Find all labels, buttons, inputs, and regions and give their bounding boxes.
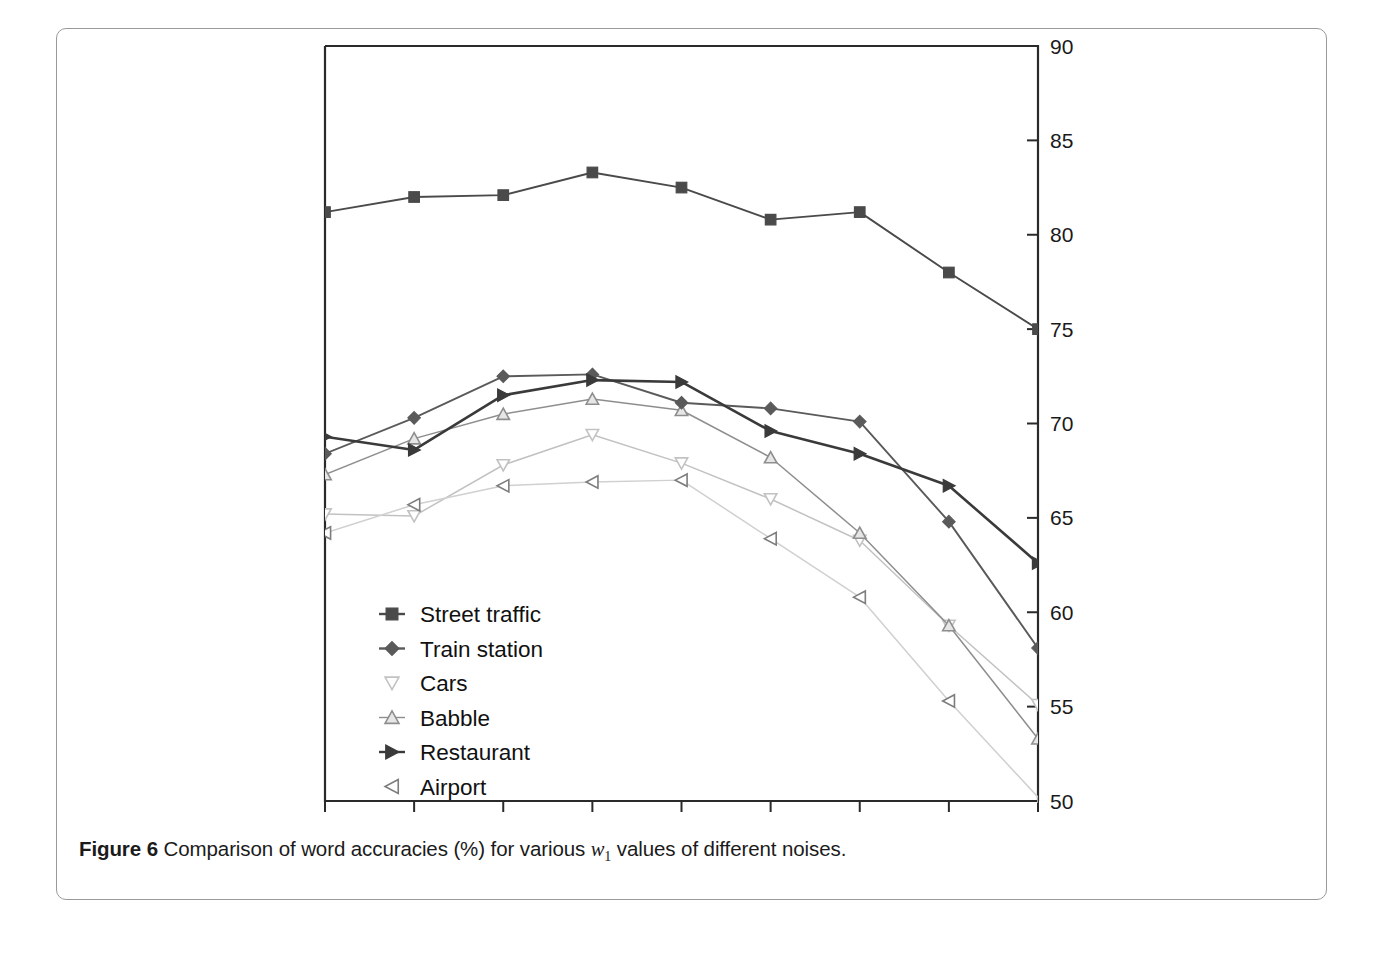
data-point-marker <box>586 430 598 441</box>
data-point-marker <box>854 448 866 460</box>
legend-label: Train station <box>420 637 543 662</box>
data-point-marker <box>586 476 598 488</box>
chart-series <box>320 167 1044 334</box>
x-axis-ticks: -9-8-7-6-5-4-3-2-1 <box>316 801 1048 829</box>
chart-series <box>319 430 1044 711</box>
x-tick-label: -2 <box>940 826 959 829</box>
y-tick-label: 90 <box>1050 35 1073 58</box>
data-point-marker <box>319 448 331 460</box>
y-tick-label: 55 <box>1050 695 1073 718</box>
legend-label: Cars <box>420 671 468 696</box>
y-tick-label: 50 <box>1050 790 1073 813</box>
y-tick-label: 70 <box>1050 412 1073 435</box>
data-point-marker <box>854 207 865 218</box>
data-point-marker <box>764 402 776 414</box>
y-tick-label: 80 <box>1050 223 1073 246</box>
y-tick-label: 60 <box>1050 601 1073 624</box>
data-point-marker <box>385 677 399 689</box>
figure-caption-text-before: Comparison of word accuracies (%) for va… <box>164 837 591 860</box>
data-point-marker <box>498 190 509 201</box>
y-tick-label: 75 <box>1050 318 1073 341</box>
x-tick-label: -3 <box>850 826 869 829</box>
data-point-marker <box>498 389 510 401</box>
data-point-marker <box>675 397 687 409</box>
legend-item[interactable]: Street traffic <box>379 602 541 627</box>
legend-item[interactable]: Train station <box>379 637 543 662</box>
y-tick-label: 85 <box>1050 129 1073 152</box>
legend-item[interactable]: Restaurant <box>379 740 531 765</box>
data-point-marker <box>409 444 421 456</box>
data-point-marker <box>1033 324 1044 335</box>
data-point-marker <box>386 745 399 759</box>
y-tick-label: 65 <box>1050 506 1073 529</box>
data-point-marker <box>586 393 598 404</box>
data-point-marker <box>408 433 420 444</box>
data-point-marker <box>385 780 398 794</box>
data-point-marker <box>1032 642 1044 654</box>
figure-caption-text-after: values of different noises. <box>611 837 846 860</box>
x-tick-label: -5 <box>672 826 691 829</box>
data-point-marker <box>319 469 331 480</box>
data-point-marker <box>764 452 776 463</box>
x-tick-label: -6 <box>583 826 602 829</box>
data-point-marker <box>676 376 688 388</box>
data-point-marker <box>764 494 776 505</box>
legend-label: Airport <box>420 775 487 800</box>
chart-plot-area: 505560657075808590-9-8-7-6-5-4-3-2-1Stre… <box>57 29 1328 829</box>
x-tick-label: -4 <box>761 826 780 829</box>
data-point-marker <box>676 182 687 193</box>
data-point-marker <box>408 498 420 510</box>
y-axis-ticks: 505560657075808590 <box>1024 35 1073 813</box>
legend-label: Street traffic <box>420 602 541 627</box>
data-point-marker <box>944 267 955 278</box>
series-line <box>325 172 1038 329</box>
line-chart: 505560657075808590-9-8-7-6-5-4-3-2-1Stre… <box>57 29 1328 829</box>
legend-item[interactable]: Cars <box>385 671 467 696</box>
legend-label: Babble <box>420 706 490 731</box>
data-point-marker <box>1032 733 1044 744</box>
data-point-marker <box>385 642 399 656</box>
series-line <box>325 435 1038 705</box>
x-tick-label: -1 <box>1029 826 1048 829</box>
data-point-marker <box>675 458 687 469</box>
chart-legend: Street trafficTrain stationCarsBabbleRes… <box>379 602 543 800</box>
data-point-marker <box>386 608 398 620</box>
x-tick-label: -7 <box>494 826 513 829</box>
legend-label: Restaurant <box>420 740 531 765</box>
data-point-marker <box>320 207 331 218</box>
legend-item[interactable]: Babble <box>379 706 490 731</box>
data-point-marker <box>675 474 687 486</box>
data-point-marker <box>497 460 509 471</box>
figure-caption-variable: w <box>591 838 605 860</box>
data-point-marker <box>497 480 509 492</box>
figure-caption-label: Figure 6 <box>79 837 158 860</box>
data-point-marker <box>1032 699 1044 710</box>
data-point-marker <box>409 192 420 203</box>
figure-caption: Figure 6 Comparison of word accuracies (… <box>79 835 1294 867</box>
x-tick-label: -9 <box>316 826 335 829</box>
figure-card: 505560657075808590-9-8-7-6-5-4-3-2-1Stre… <box>56 28 1327 900</box>
legend-item[interactable]: Airport <box>385 775 487 800</box>
x-tick-label: -8 <box>405 826 424 829</box>
data-point-marker <box>854 591 866 603</box>
data-point-marker <box>764 532 776 544</box>
data-point-marker <box>587 167 598 178</box>
data-point-marker <box>497 370 509 382</box>
data-point-marker <box>408 412 420 424</box>
data-point-marker <box>765 425 777 437</box>
data-point-marker <box>765 214 776 225</box>
